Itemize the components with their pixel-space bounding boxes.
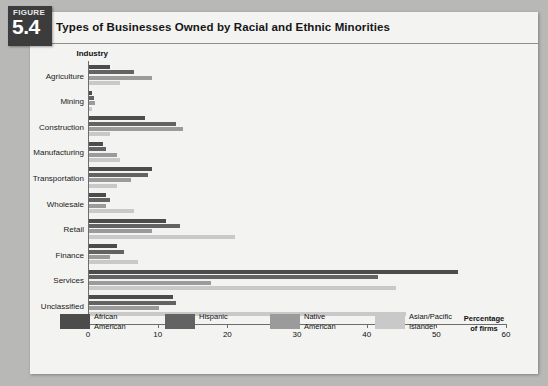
figure-card: Types of Businesses Owned by Racial and … [30,12,538,374]
bar [89,101,95,105]
legend-swatch [375,314,405,329]
y-axis-category-label: Construction [30,123,84,132]
y-axis-category-label: Wholesale [30,200,84,209]
bar [89,91,92,95]
figure-page: FIGURE 5.4 Types of Businesses Owned by … [0,0,548,386]
chart-legend: AfricanAmericanHispanicNativeAmericanAsi… [30,312,538,344]
bar [89,158,120,162]
bar [89,65,110,69]
legend-swatch [270,314,300,329]
bar [89,250,124,254]
legend-label: Hispanic [199,312,228,322]
figure-number-label: 5.4 [12,15,40,39]
legend-label: AfricanAmerican [94,312,126,331]
bar [89,184,117,188]
bar [89,235,235,239]
bar [89,270,458,274]
bar [89,295,173,299]
y-axis-category-label: Services [30,276,84,285]
bar [89,260,138,264]
bar [89,127,183,131]
figure-title-bar: Types of Businesses Owned by Racial and … [30,12,538,44]
bar [89,244,117,248]
bar [89,301,176,305]
bar [89,224,180,228]
y-axis-category-label: Agriculture [30,72,84,81]
bar [89,219,166,223]
bar [89,209,134,213]
bar [89,81,120,85]
bar [89,198,110,202]
bar [89,286,396,290]
y-axis-category-label: Mining [30,97,84,106]
legend-swatch [165,314,195,329]
bar [89,306,159,310]
legend-label: NativeAmerican [304,312,336,331]
figure-number-tab: FIGURE 5.4 [8,6,52,46]
bar [89,255,110,259]
bar [89,122,176,126]
bar [89,132,110,136]
y-axis-category-label: Unclassified [30,302,84,311]
chart-title: Types of Businesses Owned by Racial and … [56,21,390,33]
bar [89,142,103,146]
bar [89,275,378,279]
legend-swatch [60,314,90,329]
bar [89,204,106,208]
bar [89,107,92,111]
bar [89,167,152,171]
bar [89,281,211,285]
y-axis-category-label: Retail [30,225,84,234]
bar [89,70,134,74]
y-axis-title: Industry [50,49,108,58]
y-axis-category-label: Transportation [30,174,84,183]
bar [89,173,148,177]
bar [89,193,106,197]
bar [89,178,131,182]
bar [89,76,152,80]
y-axis-category-label: Manufacturing [30,148,84,157]
bar [89,116,145,120]
bar [89,153,117,157]
bar [89,229,152,233]
bar [89,96,94,100]
x-axis-title: Percentageof firms [438,314,530,333]
y-axis-category-label: Finance [30,251,84,260]
bar [89,147,106,151]
